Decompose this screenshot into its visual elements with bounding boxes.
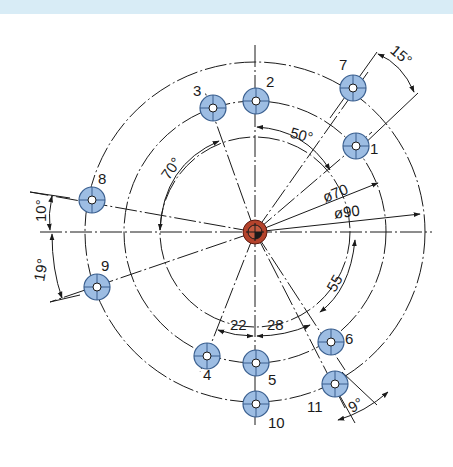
ext-line-15b xyxy=(360,93,418,148)
hole-label-8: 8 xyxy=(98,170,106,187)
holes-group xyxy=(79,75,369,417)
hole-label-1: 1 xyxy=(370,140,378,157)
radial-line-8 xyxy=(30,192,255,232)
ext-line-10 xyxy=(30,192,70,198)
hole-5 xyxy=(243,350,269,376)
hole-9 xyxy=(84,274,110,300)
dim-text-19: 19° xyxy=(30,257,51,282)
dim-arc-10 xyxy=(49,196,52,230)
hole-1 xyxy=(343,133,369,159)
hole-label-2: 2 xyxy=(266,73,274,90)
dim-text-9: 9° xyxy=(345,394,366,416)
hole-3 xyxy=(200,95,226,121)
hole-label-3: 3 xyxy=(193,82,201,99)
dim-text-15: 15° xyxy=(387,41,415,69)
dim-text-50: 50° xyxy=(289,124,315,146)
hole-7 xyxy=(340,75,366,101)
center-mark xyxy=(243,220,267,244)
hole-2 xyxy=(243,88,269,114)
ext-line-19 xyxy=(50,295,80,302)
hole-label-11: 11 xyxy=(307,398,323,415)
hole-label-10: 10 xyxy=(268,414,285,431)
dim-text-55: 55 xyxy=(323,271,346,294)
hole-11 xyxy=(322,371,348,397)
hole-10 xyxy=(243,391,269,417)
hole-6 xyxy=(318,329,344,355)
hole-8 xyxy=(79,187,105,213)
dim-text-70: 70° xyxy=(157,154,184,182)
hole-label-6: 6 xyxy=(345,330,353,347)
hole-label-5: 5 xyxy=(268,371,276,388)
dim-text-28: 28 xyxy=(267,316,284,333)
dim-line-d70 xyxy=(255,183,378,232)
bolt-circle-drawing: 1234567891011 15° 50° 70° ø70 ø90 10° 19… xyxy=(0,0,453,467)
hole-label-9: 9 xyxy=(101,257,109,274)
dim-text-22: 22 xyxy=(230,316,247,333)
dim-text-10: 10° xyxy=(32,199,49,222)
dim-text-d70: ø70 xyxy=(320,180,350,205)
hole-label-7: 7 xyxy=(339,56,347,73)
hole-label-4: 4 xyxy=(203,366,211,383)
radial-line-9 xyxy=(50,232,255,302)
dim-arc-70 xyxy=(160,141,219,230)
dim-arc-19 xyxy=(52,234,62,298)
dim-text-d90: ø90 xyxy=(333,202,361,222)
